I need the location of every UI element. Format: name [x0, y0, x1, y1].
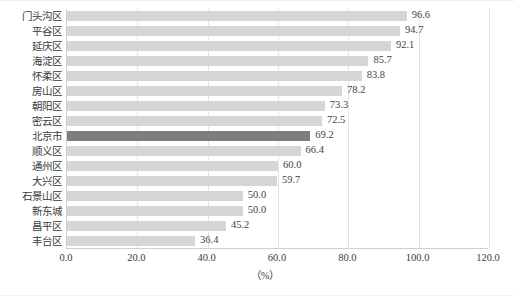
bar — [67, 101, 325, 111]
x-tick-label: 80.0 — [338, 251, 356, 265]
bar — [67, 86, 342, 96]
bar-row: 94.7 — [67, 24, 488, 39]
bar-value-label: 59.7 — [282, 173, 300, 187]
bar — [67, 221, 226, 231]
category-label: 海淀区 — [0, 54, 62, 69]
bar-value-label: 96.6 — [412, 8, 430, 22]
bar-row: 96.6 — [67, 9, 488, 24]
bar-row: 92.1 — [67, 39, 488, 54]
bar — [67, 71, 362, 81]
bar-value-label: 94.7 — [405, 23, 423, 37]
bar-row: 85.7 — [67, 54, 488, 69]
category-label: 大兴区 — [0, 174, 62, 189]
bar — [67, 26, 400, 36]
x-tick-label: 40.0 — [197, 251, 215, 265]
bar-row: 36.4 — [67, 234, 488, 249]
bar-row: 59.7 — [67, 174, 488, 189]
x-axis: 0.020.040.060.080.0100.0120.0 — [66, 251, 488, 267]
x-tick-label: 20.0 — [127, 251, 145, 265]
bar — [67, 41, 391, 51]
plot-area: 96.694.792.185.783.878.273.372.569.266.4… — [66, 9, 488, 249]
x-axis-title-label: （%） — [251, 270, 280, 281]
x-axis-title: （%） — [0, 269, 514, 283]
x-tick-label: 60.0 — [268, 251, 286, 265]
bar — [67, 161, 278, 171]
bar-row: 50.0 — [67, 204, 488, 219]
bar-value-label: 73.3 — [330, 98, 348, 112]
category-axis: 门头沟区平谷区延庆区海淀区怀柔区房山区朝阳区密云区北京市顺义区通州区大兴区石景山… — [0, 9, 66, 249]
bar — [67, 56, 368, 66]
x-tick-label: 100.0 — [406, 251, 430, 265]
bar-row: 73.3 — [67, 99, 488, 114]
bar-value-label: 83.8 — [367, 68, 385, 82]
bar — [67, 11, 407, 21]
x-tick-label: 120.0 — [476, 251, 500, 265]
bar — [67, 116, 322, 126]
category-label: 昌平区 — [0, 219, 62, 234]
x-tick-label: 0.0 — [59, 251, 72, 265]
category-label: 密云区 — [0, 114, 62, 129]
bar-value-label: 72.5 — [327, 113, 345, 127]
bar-row: 83.8 — [67, 69, 488, 84]
gridline — [489, 9, 490, 248]
category-label: 朝阳区 — [0, 99, 62, 114]
bar-value-label: 69.2 — [315, 128, 333, 142]
bar-row: 45.2 — [67, 219, 488, 234]
category-label: 北京市 — [0, 129, 62, 144]
bar-row: 60.0 — [67, 159, 488, 174]
bar — [67, 146, 301, 156]
category-label: 通州区 — [0, 159, 62, 174]
bar-row: 78.2 — [67, 84, 488, 99]
category-label: 顺义区 — [0, 144, 62, 159]
bar-row: 72.5 — [67, 114, 488, 129]
category-label: 房山区 — [0, 84, 62, 99]
bar-chart: 门头沟区平谷区延庆区海淀区怀柔区房山区朝阳区密云区北京市顺义区通州区大兴区石景山… — [0, 0, 514, 296]
bar-value-label: 78.2 — [347, 83, 365, 97]
bar — [67, 206, 243, 216]
bar — [67, 176, 277, 186]
category-label: 丰台区 — [0, 234, 62, 249]
bar — [67, 236, 195, 246]
category-label: 门头沟区 — [0, 9, 62, 24]
bar-value-label: 60.0 — [283, 158, 301, 172]
bar-value-label: 36.4 — [200, 233, 218, 247]
bar-value-label: 45.2 — [231, 218, 249, 232]
bar-row: 66.4 — [67, 144, 488, 159]
bar-row: 50.0 — [67, 189, 488, 204]
bar-value-label: 66.4 — [306, 143, 324, 157]
category-label: 新东城 — [0, 204, 62, 219]
bar-row: 69.2 — [67, 129, 488, 144]
bar-value-label: 85.7 — [373, 53, 391, 67]
category-label: 延庆区 — [0, 39, 62, 54]
bar-highlighted — [67, 131, 310, 141]
bar-value-label: 50.0 — [248, 188, 266, 202]
bar — [67, 191, 243, 201]
bar-value-label: 50.0 — [248, 203, 266, 217]
category-label: 石景山区 — [0, 189, 62, 204]
category-label: 怀柔区 — [0, 69, 62, 84]
category-label: 平谷区 — [0, 24, 62, 39]
bar-value-label: 92.1 — [396, 38, 414, 52]
